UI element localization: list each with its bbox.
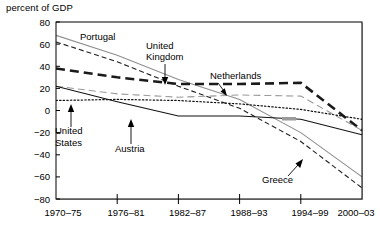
y-tick-label-m80: −80 <box>34 194 50 205</box>
y-tick-label-60: 60 <box>39 39 50 50</box>
series-label-united-states-line2: States <box>55 137 82 148</box>
series-label-netherlands: Netherlands <box>210 70 261 81</box>
x-tick-label-6: 2000–03 <box>338 207 375 218</box>
y-tick-label-20: 20 <box>39 83 50 94</box>
y-tick-label-80: 80 <box>39 17 50 28</box>
series-label-united-states-line1: United <box>55 125 82 136</box>
y-tick-label-0: 0 <box>45 105 50 116</box>
x-tick-label-3: 1982–87 <box>169 207 206 218</box>
chart-canvas: 80 60 40 20 0 −20 −40 −60 −80 1970–75 19… <box>0 0 380 245</box>
chart-figure: percent of GDP <box>0 0 380 245</box>
plot-background <box>56 22 362 199</box>
series-label-austria: Austria <box>115 143 145 154</box>
y-tick-label-m60: −60 <box>34 171 50 182</box>
y-tick-label-m40: −40 <box>34 149 50 160</box>
series-label-portugal: Portugal <box>80 31 115 42</box>
scan-artifact <box>282 117 296 121</box>
y-tick-label-40: 40 <box>39 61 50 72</box>
x-tick-label-4: 1988–93 <box>231 207 268 218</box>
series-label-united-kingdom-line2: Kingdom <box>146 51 184 62</box>
x-tick-label-1: 1970–75 <box>45 207 82 218</box>
y-tick-label-m20: −20 <box>34 127 50 138</box>
x-tick-label-2: 1976–81 <box>108 207 145 218</box>
x-tick-label-5: 1994–99 <box>292 207 329 218</box>
series-label-united-kingdom-line1: United <box>146 40 173 51</box>
